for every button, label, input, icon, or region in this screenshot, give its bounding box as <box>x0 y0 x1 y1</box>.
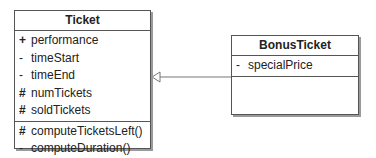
class-bonusticket[interactable]: BonusTicket - specialPrice <box>231 35 359 115</box>
attribute-name: soldTickets <box>31 102 91 120</box>
visibility-public: + <box>15 32 31 50</box>
attribute-name: timeEnd <box>31 67 75 85</box>
visibility-protected: # <box>15 102 31 120</box>
attributes-section: - specialPrice <box>232 56 358 77</box>
method: - computeDuration() <box>15 140 150 157</box>
method-name: computeTicketsLeft() <box>31 123 143 141</box>
visibility-private: - <box>232 57 248 75</box>
attribute: + performance <box>15 32 150 50</box>
attribute: # soldTickets <box>15 102 150 120</box>
attribute: - timeEnd <box>15 67 150 85</box>
attribute: # numTickets <box>15 85 150 103</box>
class-ticket[interactable]: Ticket + performance - timeStart - timeE… <box>14 10 151 149</box>
visibility-private: - <box>15 140 31 157</box>
attribute-name: numTickets <box>31 85 92 103</box>
methods-section: # computeTicketsLeft() - computeDuration… <box>15 122 150 158</box>
visibility-protected: # <box>15 85 31 103</box>
method: # computeTicketsLeft() <box>15 123 150 141</box>
method-name: computeDuration() <box>31 140 130 157</box>
visibility-private: - <box>15 67 31 85</box>
attribute: - specialPrice <box>232 57 358 75</box>
class-name: BonusTicket <box>232 36 358 56</box>
class-name: Ticket <box>15 11 150 31</box>
attribute-name: performance <box>31 32 98 50</box>
visibility-protected: # <box>15 123 31 141</box>
methods-section <box>232 77 358 79</box>
attribute-name: timeStart <box>31 50 79 68</box>
attributes-section: + performance - timeStart - timeEnd # nu… <box>15 31 150 122</box>
attribute: - timeStart <box>15 50 150 68</box>
visibility-private: - <box>15 50 31 68</box>
attribute-name: specialPrice <box>248 57 313 75</box>
